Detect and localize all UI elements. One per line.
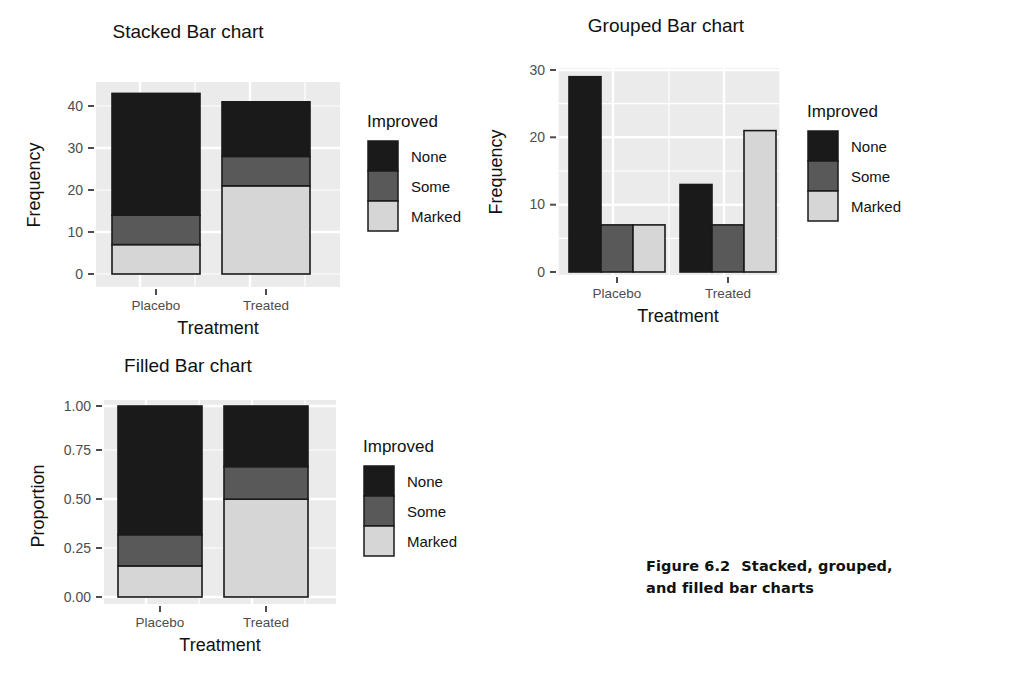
- grouped-bar-placebo-some: [601, 225, 633, 272]
- filled-xtick-treated: Treated: [243, 615, 289, 630]
- stacked-segment-treated-none: [222, 102, 310, 157]
- filled-legend-title: Improved: [363, 437, 434, 456]
- figure-caption-line1: Stacked, grouped,: [741, 558, 892, 574]
- filled-ytick-050: 0.50: [64, 491, 91, 507]
- filled-segment-treated-none: [224, 406, 308, 467]
- filled-legend-label-some: Some: [407, 503, 446, 520]
- stacked-x-axis: Placebo Treated: [132, 289, 289, 313]
- filled-ytick-100: 1.00: [64, 398, 91, 414]
- grouped-legend-label-none: None: [851, 138, 887, 155]
- filled-chart-title: Filled Bar chart: [124, 355, 252, 376]
- stacked-xtick-treated: Treated: [243, 298, 289, 313]
- filled-y-axis: 0.00 0.25 0.50 0.75 1.00: [64, 398, 102, 605]
- stacked-xtick-placebo: Placebo: [132, 298, 181, 313]
- stacked-segment-placebo-some: [112, 215, 200, 244]
- grouped-x-axis-title: Treatment: [637, 306, 718, 326]
- grouped-legend-label-marked: Marked: [851, 198, 901, 215]
- stacked-ytick-20: 20: [67, 182, 83, 198]
- stacked-segment-treated-marked: [222, 186, 310, 274]
- filled-x-axis: Placebo Treated: [136, 606, 289, 630]
- filled-legend-swatch-marked: [364, 526, 394, 556]
- filled-x-axis-title: Treatment: [179, 635, 260, 655]
- filled-xtick-placebo: Placebo: [136, 615, 185, 630]
- filled-legend-label-none: None: [407, 473, 443, 490]
- filled-ytick-000: 0.00: [64, 589, 91, 605]
- grouped-bar-placebo-marked: [633, 225, 665, 272]
- filled-y-axis-title: Proportion: [28, 464, 48, 547]
- stacked-legend-label-some: Some: [411, 178, 450, 195]
- grouped-bar-placebo-none: [569, 77, 601, 272]
- grouped-bar-chart-svg: Grouped Bar chart 0 10 20 30: [470, 0, 1011, 340]
- grouped-legend-title: Improved: [807, 102, 878, 121]
- stacked-legend-swatch-some: [368, 171, 398, 201]
- stacked-chart-title: Stacked Bar chart: [112, 21, 264, 42]
- stacked-segment-placebo-none: [112, 93, 200, 215]
- stacked-legend-swatch-none: [368, 141, 398, 171]
- filled-segment-placebo-none: [118, 406, 202, 535]
- grouped-legend-swatch-none: [808, 131, 838, 161]
- filled-segment-treated-marked: [224, 499, 308, 597]
- stacked-y-axis: 0 10 20 30 40: [67, 98, 94, 282]
- filled-segment-placebo-some: [118, 535, 202, 566]
- filled-ytick-025: 0.25: [64, 540, 91, 556]
- stacked-ytick-30: 30: [67, 140, 83, 156]
- stacked-legend-title: Improved: [367, 112, 438, 131]
- grouped-legend-swatch-marked: [808, 191, 838, 221]
- figure-number: Figure 6.2: [646, 558, 730, 574]
- filled-bar-placebo: [118, 406, 202, 597]
- grouped-bar-treated-marked: [744, 131, 776, 272]
- grouped-ytick-30: 30: [529, 62, 545, 78]
- grouped-bar-treated-some: [712, 225, 744, 272]
- stacked-ytick-10: 10: [67, 224, 83, 240]
- filled-segment-placebo-marked: [118, 566, 202, 597]
- stacked-x-axis-title: Treatment: [177, 318, 258, 338]
- stacked-legend-label-none: None: [411, 148, 447, 165]
- filled-legend-swatch-none: [364, 466, 394, 496]
- grouped-bar-chart-figure: Grouped Bar chart 0 10 20 30: [470, 0, 1011, 340]
- filled-segment-treated-some: [224, 467, 308, 500]
- filled-legend-label-marked: Marked: [407, 533, 457, 550]
- filled-bar-chart-svg: Filled Bar chart 0.00 0.25 0.50 0.75 1.0…: [0, 340, 520, 670]
- stacked-legend: Improved None Some Marked: [367, 112, 461, 231]
- grouped-legend: Improved None Some Marked: [807, 102, 901, 221]
- stacked-legend-label-marked: Marked: [411, 208, 461, 225]
- grouped-ytick-0: 0: [537, 264, 545, 280]
- grouped-ytick-20: 20: [529, 129, 545, 145]
- grouped-y-axis-title: Frequency: [486, 129, 506, 214]
- stacked-y-axis-title: Frequency: [24, 142, 44, 227]
- grouped-chart-title: Grouped Bar chart: [588, 15, 745, 36]
- grouped-ytick-10: 10: [529, 196, 545, 212]
- grouped-bar-treated-none: [680, 185, 712, 273]
- stacked-segment-placebo-marked: [112, 245, 200, 274]
- grouped-y-axis: 0 10 20 30: [529, 62, 556, 280]
- filled-legend: Improved None Some Marked: [363, 437, 457, 556]
- stacked-bar-placebo: [112, 93, 200, 274]
- stacked-bar-chart-figure: Stacked Bar chart 0 10 20 30 40: [0, 10, 520, 340]
- grouped-xtick-treated: Treated: [705, 286, 751, 301]
- stacked-segment-treated-some: [222, 156, 310, 185]
- stacked-ytick-0: 0: [75, 266, 83, 282]
- grouped-xtick-placebo: Placebo: [593, 286, 642, 301]
- stacked-legend-swatch-marked: [368, 201, 398, 231]
- filled-bar-treated: [224, 406, 308, 597]
- stacked-ytick-40: 40: [67, 98, 83, 114]
- stacked-bar-chart-svg: Stacked Bar chart 0 10 20 30 40: [0, 10, 520, 340]
- stacked-bar-treated: [222, 102, 310, 274]
- figure-caption: Figure 6.2Stacked, grouped, and filled b…: [646, 556, 946, 600]
- grouped-x-axis: Placebo Treated: [593, 277, 751, 301]
- filled-bar-chart-figure: Filled Bar chart 0.00 0.25 0.50 0.75 1.0…: [0, 340, 520, 670]
- grouped-legend-label-some: Some: [851, 168, 890, 185]
- grouped-legend-swatch-some: [808, 161, 838, 191]
- figure-caption-line2: and filled bar charts: [646, 580, 814, 596]
- filled-legend-swatch-some: [364, 496, 394, 526]
- filled-ytick-075: 0.75: [64, 442, 91, 458]
